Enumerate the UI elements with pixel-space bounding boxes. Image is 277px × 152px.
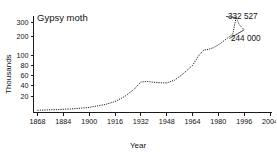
chart-canvas: Gypsy moth Thousands Year 20406080100200… (0, 0, 276, 152)
x-tick-label: 1932 (133, 117, 149, 126)
y-tick-label: 80 (21, 61, 29, 70)
x-tick-label: 1868 (30, 117, 46, 126)
chart-title: Gypsy moth (37, 12, 88, 23)
x-tick-label: 1964 (185, 117, 201, 126)
x-axis-title: Year (130, 141, 147, 150)
y-tick-label: 60 (21, 71, 29, 80)
y-tick-label: 40 (21, 81, 29, 90)
y-tick-label: 200 (17, 32, 29, 41)
y-tick-label: 20 (21, 92, 29, 101)
y-tick-label: 300 (17, 18, 29, 27)
x-tick-label: 1900 (81, 117, 97, 126)
x-tick-label: 1996 (236, 117, 252, 126)
y-axis-title: Thousands (4, 54, 13, 94)
y-axis-ticks: 20406080100200300 (17, 18, 34, 102)
gypsy-moth-chart: Gypsy moth Thousands Year 20406080100200… (0, 0, 276, 152)
x-tick-label: 1884 (55, 117, 71, 126)
annotation-end-value: 244 000 (231, 34, 261, 43)
x-tick-label: 1948 (159, 117, 175, 126)
y-tick-label: 100 (17, 51, 29, 60)
x-tick-label: 1980 (210, 117, 226, 126)
x-tick-label: 1916 (107, 117, 123, 126)
x-axis-ticks: 1868188419001916193219481964198019962004 (30, 113, 277, 127)
x-tick-label: 2004 (262, 117, 276, 126)
annotation-peak-value: 332 527 (228, 12, 258, 21)
data-series-line (38, 17, 245, 110)
